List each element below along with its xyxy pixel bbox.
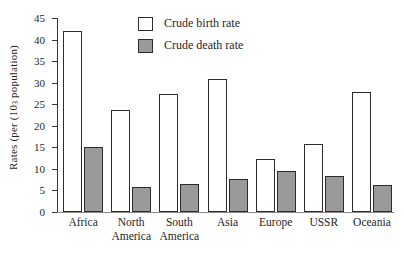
bar-birth-6 (352, 92, 371, 212)
y-tick-label-30: 30 (34, 77, 45, 89)
bar-birth-4 (256, 159, 275, 212)
y-tick-label-45: 45 (34, 12, 45, 24)
x-axis-label-line1: Africa (68, 215, 97, 229)
x-axis-label-5: USSR (309, 215, 338, 229)
x-axis-label-0: Africa (68, 215, 97, 229)
y-tick-label-10: 10 (34, 163, 45, 175)
x-axis-line (56, 212, 394, 213)
bar-death-6 (373, 185, 392, 212)
legend-item-0: Crude birth rate (138, 14, 243, 33)
x-axis-label-line1: South (160, 215, 200, 229)
x-axis-label-line1: USSR (309, 215, 338, 229)
y-axis-title-after: population) (7, 45, 19, 101)
bar-birth-5 (304, 144, 323, 212)
x-axis-label-6: Oceania (353, 215, 391, 229)
legend-item-1: Crude death rate (138, 36, 243, 55)
y-tick-40: 40 (52, 40, 57, 41)
bar-birth-1 (111, 110, 130, 212)
y-axis-line (57, 18, 58, 212)
bar-death-4 (277, 171, 296, 212)
y-axis-title-subscript: 3 (11, 101, 20, 105)
y-axis-title-before: Rates (per (10 (7, 105, 19, 170)
x-axis-label-line1: Asia (217, 215, 238, 229)
chart-legend: Crude birth rateCrude death rate (138, 14, 243, 58)
y-tick-10: 10 (52, 169, 57, 170)
x-axis-label-line2: America (111, 229, 151, 243)
y-tick-35: 35 (52, 61, 57, 62)
legend-label-0: Crude birth rate (164, 16, 240, 31)
x-axis-label-line1: North (111, 215, 151, 229)
y-tick-25: 25 (52, 104, 57, 105)
x-axis-label-3: Asia (217, 215, 238, 229)
y-tick-45: 45 (52, 18, 57, 19)
y-tick-5: 5 (52, 190, 57, 191)
bar-death-5 (325, 176, 344, 212)
bar-birth-2 (159, 94, 178, 212)
bar-death-2 (180, 184, 199, 212)
x-axis-label-line1: Oceania (353, 215, 391, 229)
legend-swatch-0 (138, 17, 153, 31)
legend-label-1: Crude death rate (164, 38, 243, 53)
x-axis-label-line2: America (160, 229, 200, 243)
y-tick-label-35: 35 (34, 55, 45, 67)
y-tick-label-0: 0 (40, 206, 46, 218)
bar-death-0 (84, 147, 103, 212)
y-tick-15: 15 (52, 147, 57, 148)
y-axis-title: Rates (per (103 population) (0, 0, 26, 215)
bar-death-1 (132, 187, 151, 212)
y-tick-label-20: 20 (34, 120, 45, 132)
legend-swatch-1 (138, 39, 153, 53)
bar-death-3 (229, 179, 248, 212)
x-axis-label-1: NorthAmerica (111, 215, 151, 243)
x-axis-label-4: Europe (259, 215, 292, 229)
y-tick-0: 0 (52, 212, 57, 213)
x-axis-label-2: SouthAmerica (160, 215, 200, 243)
y-axis-title-text: Rates (per (103 population) (7, 45, 20, 170)
bar-birth-3 (208, 79, 227, 212)
y-tick-label-25: 25 (34, 98, 45, 110)
y-tick-label-15: 15 (34, 141, 45, 153)
y-tick-label-5: 5 (40, 184, 46, 196)
y-tick-20: 20 (52, 126, 57, 127)
y-tick-label-40: 40 (34, 34, 45, 46)
x-axis-label-line1: Europe (259, 215, 292, 229)
bar-birth-0 (63, 31, 82, 212)
bar-chart-figure: Rates (per (103 population) 051015202530… (0, 0, 404, 259)
y-tick-30: 30 (52, 83, 57, 84)
